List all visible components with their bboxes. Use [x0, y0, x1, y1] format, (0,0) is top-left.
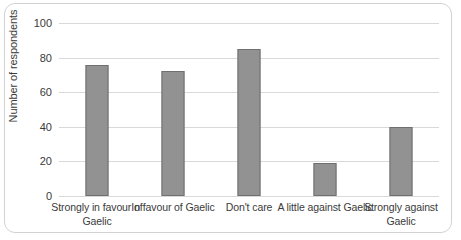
gridline: 0 — [59, 196, 439, 197]
plot-area: 020406080100 — [59, 23, 439, 196]
bars-group — [59, 23, 439, 196]
bar — [390, 127, 413, 196]
y-axis-title: Number of respondents — [7, 1, 25, 131]
x-axis-labels-group: Strongly in favour of GaelicIn favour of… — [59, 200, 439, 236]
bar — [162, 71, 185, 196]
y-tick-label: 20 — [40, 155, 52, 167]
y-tick-label: 60 — [40, 86, 52, 98]
bar — [86, 65, 109, 196]
y-tick-label: 40 — [40, 121, 52, 133]
y-tick-label: 80 — [40, 52, 52, 64]
bar — [314, 163, 337, 196]
bar — [238, 49, 261, 196]
y-tick-label: 100 — [34, 17, 52, 29]
x-tick-label: Strongly against Gaelic — [353, 200, 449, 228]
chart-figure: Number of respondents 020406080100 Stron… — [4, 3, 452, 233]
